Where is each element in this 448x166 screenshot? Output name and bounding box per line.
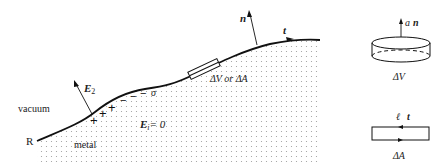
conductor-surface-diagram: + + + − − − vacuum metal R E2 Ei= 0 σ n … xyxy=(0,0,448,166)
normal-n-label: n xyxy=(240,12,246,24)
loop-caption: ΔA xyxy=(392,150,406,161)
plus-charge: + xyxy=(108,100,116,115)
field-e2-label: E2 xyxy=(83,82,95,96)
tangent-t-label: t xyxy=(283,24,287,36)
plus-charge: + xyxy=(99,106,107,121)
loop-t-label: t xyxy=(407,111,411,122)
minus-charge: − xyxy=(130,90,136,102)
minus-charge: − xyxy=(120,94,126,106)
pillbox-cylinder xyxy=(372,18,430,62)
loop-l-label: ℓ xyxy=(396,111,400,122)
pillbox-caption: ΔV xyxy=(392,71,407,82)
field-inside-label: Ei= 0 xyxy=(139,118,166,132)
metal-label: metal xyxy=(74,139,96,150)
normal-n-arrow xyxy=(247,10,257,45)
pillbox-normal-a-label: a xyxy=(405,17,410,28)
point-r-label: R xyxy=(26,135,34,147)
region-label: ΔV or ΔA xyxy=(209,73,249,84)
minus-charge: − xyxy=(140,87,146,99)
rectangular-loop xyxy=(372,125,429,142)
plus-charge: + xyxy=(90,113,98,128)
pillbox-normal-n-label: n xyxy=(413,17,419,28)
vacuum-label: vacuum xyxy=(18,103,50,114)
